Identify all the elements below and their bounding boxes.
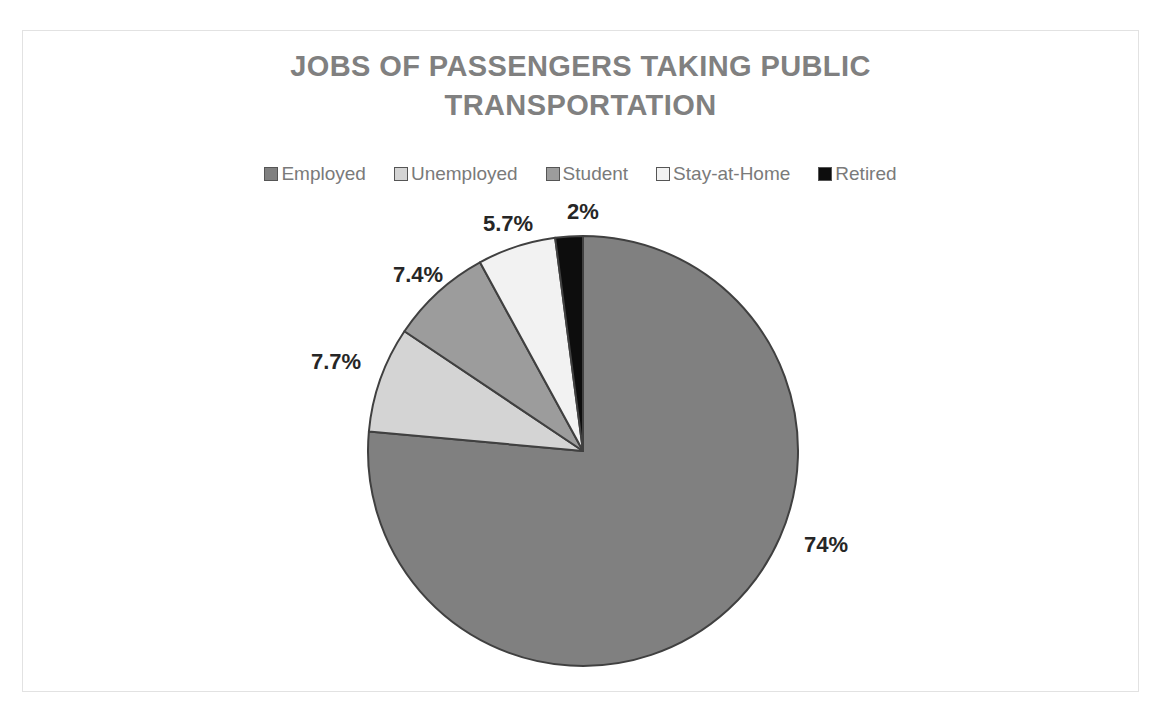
data-label-employed: 74%: [804, 534, 848, 556]
data-label-stay-at-home: 5.7%: [483, 213, 533, 235]
data-label-unemployed: 7.7%: [311, 351, 361, 373]
data-label-student: 7.4%: [393, 264, 443, 286]
pie-chart-area: 74%7.7%7.4%5.7%2%: [23, 31, 1138, 691]
pie-chart-svg: [23, 31, 1138, 691]
data-label-retired: 2%: [567, 201, 599, 223]
chart-frame: JOBS OF PASSENGERS TAKING PUBLIC TRANSPO…: [22, 30, 1139, 692]
